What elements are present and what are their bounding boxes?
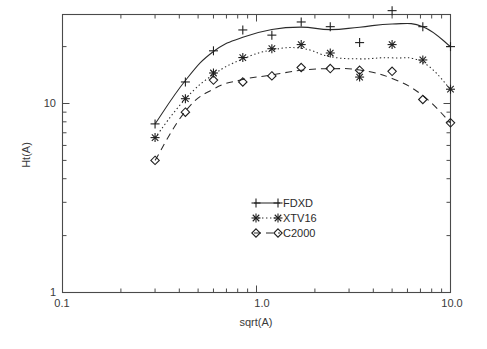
chart-background	[0, 0, 487, 349]
x-axis-title: sqrt(A)	[240, 316, 273, 328]
legend-label-fdxd: FDXD	[283, 197, 313, 209]
data-point-xtv16-4	[267, 44, 276, 53]
x-tick-label-0: 0.1	[54, 297, 69, 309]
x-tick-label-1: 1.0	[254, 297, 269, 309]
data-point-xtv16-3	[238, 53, 247, 62]
y-axis-title: Ht(A)	[20, 142, 32, 168]
y-tick-label-1: 10	[44, 97, 56, 109]
data-point-xtv16-1	[181, 94, 190, 103]
data-point-xtv16-6	[326, 49, 335, 58]
data-point-xtv16-0	[151, 133, 160, 142]
legend-marker-xtv16-0	[252, 214, 261, 223]
legend-marker-xtv16-1	[274, 214, 283, 223]
x-tick-label-2: 10.0	[441, 297, 462, 309]
figure-canvas: 0.1 1.0 10.0 1 10 sqrt(A) Ht(A) FDXDXTV1…	[0, 0, 487, 349]
legend-label-xtv16: XTV16	[283, 212, 317, 224]
legend-label-c2000: C2000	[283, 227, 315, 239]
data-point-xtv16-9	[418, 55, 427, 64]
chart-svg: 0.1 1.0 10.0 1 10 sqrt(A) Ht(A) FDXDXTV1…	[0, 0, 487, 349]
data-point-xtv16-5	[297, 40, 306, 49]
data-point-xtv16-8	[388, 40, 397, 49]
data-point-xtv16-10	[446, 85, 455, 94]
y-tick-label-0: 1	[50, 286, 56, 298]
